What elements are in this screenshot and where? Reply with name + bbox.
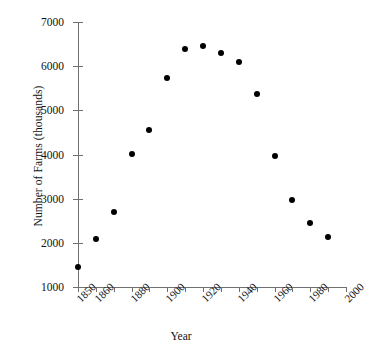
y-tick-label: 2000 bbox=[41, 235, 64, 251]
data-point bbox=[254, 91, 260, 97]
data-point bbox=[307, 220, 313, 226]
data-point bbox=[93, 236, 99, 242]
x-tick bbox=[114, 287, 115, 292]
y-tick: 5000 bbox=[73, 110, 83, 111]
y-tick: 6000 bbox=[73, 66, 83, 67]
y-tick: 4000 bbox=[73, 155, 83, 156]
data-point bbox=[75, 264, 81, 270]
x-tick bbox=[221, 287, 222, 292]
x-tick bbox=[185, 287, 186, 292]
x-tick-label: 1940 bbox=[235, 280, 259, 304]
x-axis-title: Year bbox=[0, 330, 362, 342]
x-tick-label: 1980 bbox=[306, 280, 330, 304]
x-tick bbox=[257, 287, 258, 292]
y-tick-label: 7000 bbox=[41, 14, 64, 30]
data-point bbox=[218, 50, 224, 56]
x-tick-label: 1860 bbox=[92, 280, 116, 304]
data-point bbox=[272, 153, 278, 159]
data-point bbox=[129, 151, 135, 157]
y-tick-label: 6000 bbox=[41, 58, 64, 74]
x-tick-label: 1960 bbox=[271, 280, 295, 304]
x-tick-label: 2000 bbox=[342, 280, 366, 304]
data-point bbox=[182, 46, 188, 52]
x-tick-label: 1880 bbox=[128, 280, 152, 304]
data-point bbox=[236, 59, 242, 65]
data-point bbox=[325, 234, 331, 240]
y-tick-label: 4000 bbox=[41, 147, 64, 163]
y-tick-label: 1000 bbox=[41, 279, 64, 295]
y-tick: 7000 bbox=[73, 22, 83, 23]
y-tick: 2000 bbox=[73, 243, 83, 244]
data-point bbox=[289, 197, 295, 203]
y-tick: 3000 bbox=[73, 199, 83, 200]
data-point bbox=[146, 127, 152, 133]
x-tick-label: 1920 bbox=[199, 280, 223, 304]
x-tick-label: 1900 bbox=[163, 280, 187, 304]
y-tick-label: 3000 bbox=[41, 191, 64, 207]
data-point bbox=[111, 209, 117, 215]
x-tick bbox=[328, 287, 329, 292]
data-point bbox=[200, 43, 206, 49]
x-tick bbox=[149, 287, 150, 292]
y-tick-label: 5000 bbox=[41, 102, 64, 118]
data-point bbox=[164, 75, 170, 81]
plot-area: 1000200030004000500060007000 18501860188… bbox=[78, 22, 346, 287]
x-tick bbox=[292, 287, 293, 292]
